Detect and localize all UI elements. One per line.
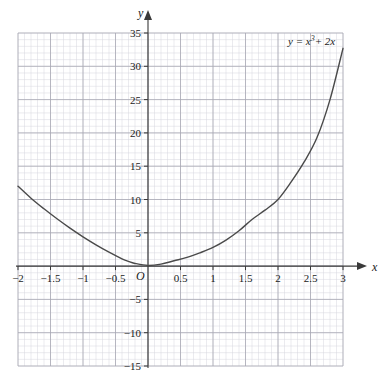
y-tick-label: −5 (129, 293, 141, 305)
y-tick-label: −10 (124, 327, 142, 339)
y-axis-label: y (137, 6, 144, 20)
equation-suffix: + 2x (315, 35, 336, 47)
x-tick-label: −2 (12, 272, 24, 284)
graph-figure: −2−1.5−1−0.50.511.522.53 3530252015105−5… (0, 0, 381, 385)
y-tick-label: 30 (130, 60, 142, 72)
y-tick-label: 10 (130, 194, 142, 206)
x-tick-label: 0.5 (174, 272, 188, 284)
x-tick-label: 1 (210, 272, 216, 284)
coordinate-plot: −2−1.5−1−0.50.511.522.53 3530252015105−5… (0, 0, 381, 385)
x-tick-label: −1 (77, 272, 89, 284)
y-tick-label: 15 (130, 160, 142, 172)
x-tick-label: 2.5 (304, 272, 318, 284)
y-tick-label: −15 (124, 360, 142, 372)
x-tick-label: 2 (275, 272, 281, 284)
x-tick-label: 1.5 (239, 272, 253, 284)
x-tick-label: −1.5 (41, 272, 61, 284)
y-tick-label: 25 (130, 94, 142, 106)
equation-prefix: y = x (287, 35, 311, 47)
x-axis-label: x (371, 260, 378, 274)
y-tick-label: 5 (136, 227, 142, 239)
x-tick-label: −0.5 (106, 272, 126, 284)
y-tick-label: 20 (130, 127, 142, 139)
origin-label: O (136, 269, 145, 283)
y-tick-label: 35 (130, 27, 142, 39)
x-tick-label: 3 (340, 272, 346, 284)
